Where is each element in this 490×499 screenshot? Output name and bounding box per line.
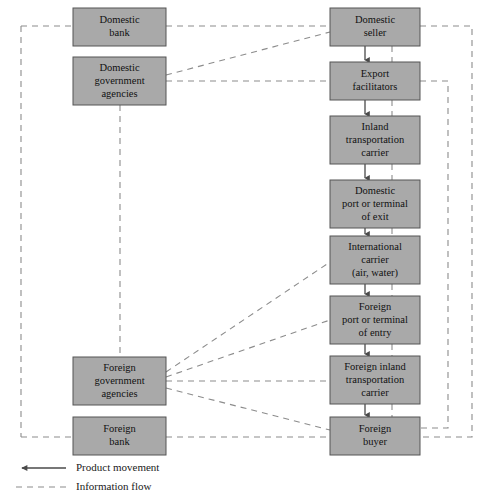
legend-item-product-movement: Product movement — [22, 461, 159, 473]
diagram-nodes: Domestic bank Domestic government agenci… — [73, 8, 420, 455]
node-export-facilitators[interactable]: Export facilitators — [330, 62, 420, 100]
node-domestic-seller[interactable]: Domestic seller — [330, 8, 420, 46]
legend-label-information-flow: Information flow — [76, 480, 152, 492]
node-foreign-government-agencies[interactable]: Foreign government agencies — [73, 357, 166, 405]
node-domestic-bank[interactable]: Domestic bank — [73, 8, 166, 46]
info-line-foreign-gov-to-foreign-buyer — [166, 388, 330, 430]
node-foreign-inland-transportation-carrier[interactable]: Foreign inland transportation carrier — [330, 356, 420, 404]
legend-item-information-flow: Information flow — [16, 480, 152, 492]
info-line-foreign-gov-to-international-carrier — [166, 262, 330, 372]
node-domestic-port-or-terminal-of-exit[interactable]: Domestic port or terminal of exit — [330, 180, 420, 228]
node-inland-transportation-carrier[interactable]: Inland transportation carrier — [330, 116, 420, 164]
node-domestic-government-agencies[interactable]: Domestic government agencies — [73, 57, 166, 105]
legend-label-product-movement: Product movement — [76, 461, 159, 473]
node-international-carrier[interactable]: International carrier (air, water) — [330, 236, 420, 284]
node-foreign-port-or-terminal-of-entry[interactable]: Foreign port or terminal of entry — [330, 296, 420, 344]
node-foreign-bank[interactable]: Foreign bank — [73, 417, 166, 455]
info-line-foreign-gov-to-foreign-port — [166, 320, 330, 377]
info-line-domestic-seller-to-foreign-buyer-loop — [420, 26, 472, 437]
legend: Product movement Information flow — [16, 461, 159, 492]
export-process-diagram: Domestic bank Domestic government agenci… — [0, 0, 490, 499]
node-foreign-buyer[interactable]: Foreign buyer — [330, 417, 420, 455]
info-line-domestic-gov-to-domestic-seller — [166, 32, 330, 75]
info-line-export-facilitators-to-foreign-buyer-loop — [420, 81, 448, 428]
diagram-canvas: Domestic bank Domestic government agenci… — [0, 0, 490, 499]
